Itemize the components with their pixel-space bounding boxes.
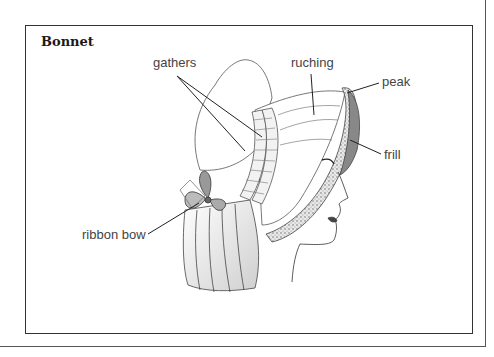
peak-leader (347, 83, 379, 93)
label-peak: peak (382, 74, 410, 89)
label-frill: frill (384, 147, 401, 162)
label-ruching: ruching (291, 55, 334, 70)
bonnet-illustration (0, 0, 494, 357)
ribbon-bow (180, 171, 226, 210)
label-ribbon-bow: ribbon bow (82, 227, 146, 242)
label-gathers: gathers (153, 55, 196, 70)
bonnet-curtain (183, 200, 258, 292)
